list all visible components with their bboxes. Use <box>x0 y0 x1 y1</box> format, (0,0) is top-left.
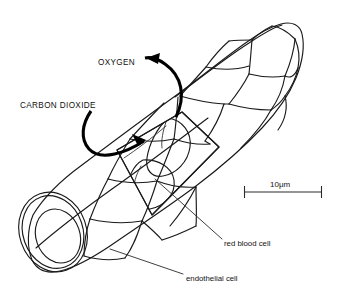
vessel-outer-rim <box>8 183 98 281</box>
oxygen-label: OXYGEN <box>98 58 135 67</box>
endothelial-cell-label: endothelial cell <box>186 274 238 283</box>
red-blood-cell-label: red blood cell <box>224 239 271 248</box>
diagram-canvas: 10μm OXYGEN CARBON DIOXIDE red blood cel… <box>0 0 337 307</box>
tube-upper-edge <box>175 25 282 97</box>
text-labels: OXYGEN CARBON DIOXIDE red blood cell end… <box>20 58 271 283</box>
tube-outline <box>28 23 303 272</box>
capillary-diagram: 10μm OXYGEN CARBON DIOXIDE red blood cel… <box>0 0 337 307</box>
carbon-dioxide-label: CARBON DIOXIDE <box>20 101 96 110</box>
endothelial-cell-leader <box>110 249 183 274</box>
oxygen-arrow-curve <box>145 58 181 117</box>
rbc-upper-concavity <box>162 122 166 148</box>
label-leader-lines <box>110 179 222 274</box>
tube-lower-edge <box>36 118 208 248</box>
capillary-cross-section <box>8 183 98 281</box>
scale-bar-label: 10μm <box>270 180 291 189</box>
scale-bar: 10μm <box>244 180 322 198</box>
oxygen-arrow-head <box>146 53 160 64</box>
